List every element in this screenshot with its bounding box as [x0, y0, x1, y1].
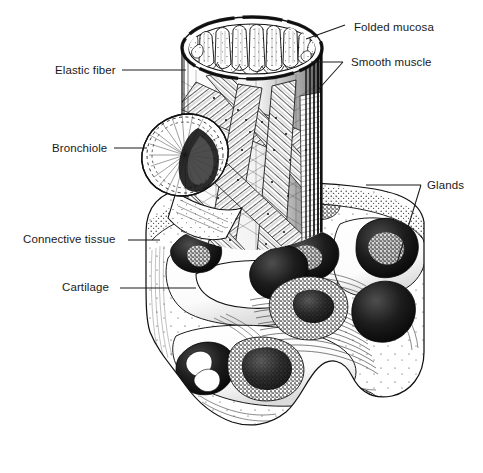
label-glands: Glands	[427, 179, 464, 191]
label-folded-mucosa: Folded mucosa	[354, 21, 434, 33]
bronchus-illustration-svg: Folded mucosa Smooth muscle Elastic fibe…	[0, 0, 483, 473]
label-cartilage: Cartilage	[62, 281, 109, 293]
anatomical-figure: Folded mucosa Smooth muscle Elastic fibe…	[0, 0, 483, 473]
label-elastic-fiber: Elastic fiber	[55, 64, 116, 76]
label-smooth-muscle: Smooth muscle	[351, 56, 432, 68]
label-connective-tissue: Connective tissue	[23, 233, 115, 245]
label-bronchiole: Bronchiole	[52, 142, 107, 154]
